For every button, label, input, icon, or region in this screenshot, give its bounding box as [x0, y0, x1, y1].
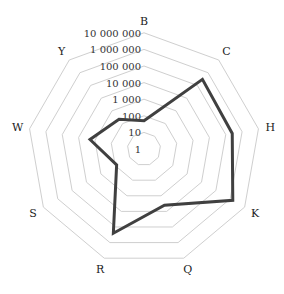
radar-tick-labels: 1101001 00010 000100 0001 000 00010 000 … — [84, 28, 141, 155]
axis-label-r: R — [96, 263, 105, 276]
tick-label: 1 000 000 — [90, 44, 141, 55]
tick-label: 1 — [135, 144, 141, 155]
axis-label-k: K — [251, 207, 260, 220]
grid-spoke — [43, 149, 144, 207]
axis-label-b: B — [140, 15, 148, 28]
axis-label-h: H — [265, 121, 275, 134]
tick-label: 100 000 — [100, 61, 141, 72]
grid-spoke — [144, 60, 219, 149]
chart-legend — [0, 284, 284, 294]
tick-label: 10 — [128, 127, 141, 138]
tick-label: 10 000 000 — [84, 28, 141, 39]
axis-label-y: Y — [57, 45, 66, 58]
axis-label-w: W — [12, 121, 24, 134]
axis-label-c: C — [222, 45, 230, 58]
tick-label: 10 000 — [106, 78, 141, 89]
tick-label: 1 000 — [112, 94, 141, 105]
radar-chart: 1101001 00010 000100 0001 000 00010 000 … — [0, 0, 284, 294]
axis-label-q: Q — [183, 263, 192, 276]
grid-spoke — [104, 149, 144, 258]
grid-spoke — [144, 149, 245, 207]
axis-label-s: S — [29, 207, 37, 220]
